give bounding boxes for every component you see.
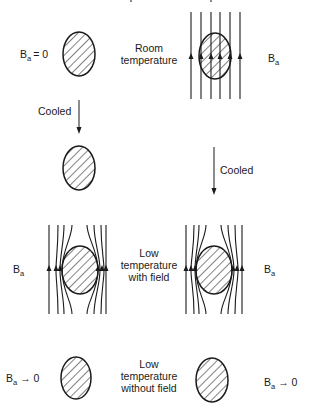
field-label-ba-to-zero: Ba→ 0 <box>6 372 40 387</box>
sample-ellipse <box>61 357 91 399</box>
svg-text:Cooled: Cooled <box>220 164 253 176</box>
room-temp-no-field-figure: Ba= 0 <box>20 32 95 76</box>
meissner-effect-diagram: Ba= 0 Room temperature Ba Cooled <box>0 0 318 414</box>
svg-text:Low: Low <box>139 358 159 370</box>
cooled-arrow-right: Cooled <box>212 147 254 195</box>
sample-ellipse <box>63 146 95 190</box>
field-label-ba: Ba <box>264 263 276 278</box>
sample-ellipse <box>196 358 228 402</box>
svg-text:with field: with field <box>128 271 170 283</box>
low-temperature-with-field-label: Low temperature with field <box>121 247 178 283</box>
room-temp-with-field-figure: Ba <box>189 12 281 99</box>
sample-ellipse <box>63 32 95 76</box>
field-label-ba-zero: Ba= 0 <box>20 48 48 63</box>
sample-ellipse <box>196 246 232 294</box>
svg-text:Cooled: Cooled <box>38 105 71 117</box>
svg-text:without field: without field <box>120 382 177 394</box>
low-temp-with-field-left-figure: Ba <box>13 225 109 314</box>
svg-text:temperature: temperature <box>121 54 178 66</box>
field-label-ba: Ba <box>268 52 280 67</box>
cooled-no-field-figure <box>63 146 95 190</box>
cooled-arrow-left: Cooled <box>38 100 82 134</box>
low-temp-with-field-right-figure: Ba <box>184 225 277 314</box>
svg-text:temperature: temperature <box>121 370 178 382</box>
svg-text:temperature: temperature <box>121 259 178 271</box>
cropped-top-remnants <box>130 0 212 2</box>
sample-ellipse <box>199 33 231 79</box>
low-temp-no-field-left-figure: Ba→ 0 <box>6 357 91 399</box>
low-temp-no-field-right-figure: Ba→ 0 <box>196 358 298 402</box>
room-temperature-label: Room temperature <box>121 42 178 66</box>
low-temperature-without-field-label: Low temperature without field <box>120 358 177 394</box>
svg-text:Low: Low <box>139 247 159 259</box>
sample-ellipse <box>62 246 98 294</box>
svg-text:Room: Room <box>135 42 163 54</box>
field-label-ba-to-zero: Ba→ 0 <box>264 376 298 391</box>
field-label-ba: Ba <box>13 263 25 278</box>
